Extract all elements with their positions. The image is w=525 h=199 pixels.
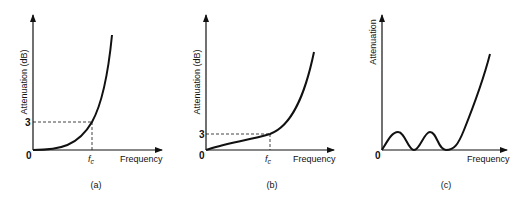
x-axis-label: Frequency bbox=[467, 154, 510, 164]
x-marker-label: fc bbox=[265, 154, 272, 165]
figure: Attenuation (dB) 0 3 fc Frequency (a) At… bbox=[0, 0, 525, 199]
attenuation-curve bbox=[206, 52, 314, 150]
attenuation-curve bbox=[33, 35, 112, 150]
y-axis-label: Attenuation (dB) bbox=[192, 49, 202, 114]
caption: (a) bbox=[91, 180, 102, 190]
attenuation-curve bbox=[382, 54, 490, 150]
origin-label: 0 bbox=[26, 150, 32, 161]
caption: (b) bbox=[267, 180, 278, 190]
y-axis-label: Attenuation bbox=[368, 19, 378, 65]
x-marker-label: fc bbox=[88, 154, 95, 165]
origin-label: 0 bbox=[199, 150, 205, 161]
caption: (c) bbox=[441, 180, 452, 190]
y-axis-label: Attenuation (dB) bbox=[19, 49, 29, 114]
x-axis-label: Frequency bbox=[120, 154, 163, 164]
origin-label: 0 bbox=[375, 150, 381, 161]
panel-a: Attenuation (dB) 0 3 fc Frequency (a) bbox=[19, 15, 163, 190]
x-axis-label: Frequency bbox=[293, 154, 336, 164]
panel-b: Attenuation (dB) 0 3 fc Frequency (b) bbox=[192, 15, 336, 190]
y-marker-label: 3 bbox=[199, 129, 205, 140]
y-marker-label: 3 bbox=[25, 117, 31, 128]
panel-c: Attenuation 0 Frequency (c) bbox=[368, 15, 510, 190]
